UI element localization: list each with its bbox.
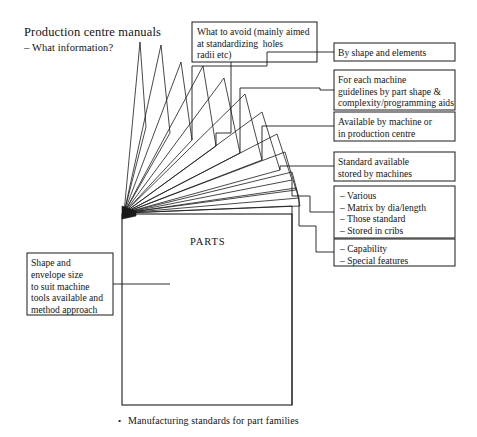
leader-to-available (262, 126, 334, 160)
capability-label: – Capability – Special features (340, 243, 408, 266)
diagram-page: Production centre manuals – What informa… (0, 0, 477, 437)
leader-to-various (292, 180, 334, 212)
fan-wedge-3 (124, 62, 192, 213)
caption-bullet-icon: • (118, 416, 121, 428)
parts-box-label: PARTS (190, 236, 226, 248)
by-shape-and-elements-label: By shape and elements (338, 47, 426, 59)
fan-wedge-group (124, 42, 300, 213)
standard-available-label: Standard available stored by machines (338, 156, 412, 179)
shape-and-envelope-label: Shape and envelope size to suit machine … (31, 257, 103, 316)
available-by-machine-label: Available by machine or in production ce… (338, 116, 432, 139)
leader-to-what-to-avoid (216, 62, 231, 146)
leader-to-capability (299, 198, 334, 252)
leader-to-machine-guidelines (240, 88, 334, 153)
various-list-label: – Various – Matrix by dia/length – Those… (340, 190, 426, 236)
what-to-avoid-label: What to avoid (mainly aimed at standardi… (197, 26, 309, 61)
machine-guidelines-label: For each machine guidelines by part shap… (338, 74, 454, 109)
page-title: Production centre manuals (24, 27, 161, 39)
page-subtitle: – What information? (24, 42, 113, 54)
leader-line-group (113, 52, 334, 405)
caption-text: Manufacturing standards for part familie… (128, 415, 299, 427)
fan-wedge-9 (124, 152, 296, 213)
leader-to-by-shape (192, 52, 334, 140)
fan-wedge-4 (124, 66, 216, 213)
